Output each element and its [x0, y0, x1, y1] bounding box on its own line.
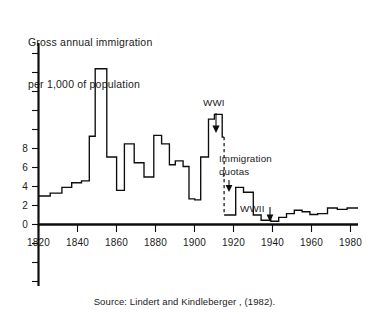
- annotation-wwi-label: WWI: [203, 97, 225, 108]
- annotation-immigration-quotas: Immigration quotas: [219, 153, 272, 192]
- x-tick-label-1860: 1860: [105, 237, 128, 248]
- x-tick-label-1880: 1880: [144, 237, 167, 248]
- x-tick-label-1840: 1840: [66, 237, 89, 248]
- x-tick-label-1900: 1900: [183, 237, 206, 248]
- annotation-wwii-label: WWII: [240, 203, 265, 214]
- y-tick-label-4: 4: [22, 181, 28, 192]
- annotation-wwii: WWII: [240, 203, 273, 222]
- y-tick-label-2: 2: [22, 200, 28, 211]
- chart-plot-area: 0 2 4 6 8 1820 1840 1860 1880 1900 1920: [0, 0, 369, 327]
- annotation-quotas-label-line-2: quotas: [219, 166, 249, 177]
- immigration-chart: Gross annual immigration per 1,000 of po…: [0, 0, 369, 327]
- x-tick-label-1960: 1960: [300, 237, 323, 248]
- annotation-quotas-label-line-1: Immigration: [219, 153, 272, 164]
- x-tick-label-1920: 1920: [222, 237, 245, 248]
- series-step-line-pre-wwi: [39, 69, 225, 200]
- y-tick-label-0: 0: [22, 219, 28, 230]
- annotation-quotas-arrow-head: [226, 185, 233, 192]
- x-tick-label-1820: 1820: [27, 237, 50, 248]
- x-tick-label-1980: 1980: [339, 237, 362, 248]
- annotation-wwi-arrow-head: [212, 126, 219, 134]
- x-tick-label-1940: 1940: [261, 237, 284, 248]
- source-caption: Source: Lindert and Kindleberger , (1982…: [0, 296, 369, 307]
- y-axis-tick-labels: 0 2 4 6 8: [22, 143, 28, 230]
- x-axis-tick-labels: 1820 1840 1860 1880 1900 1920 1940 1960 …: [27, 237, 362, 248]
- y-tick-label-6: 6: [22, 162, 28, 173]
- y-tick-label-8: 8: [22, 143, 28, 154]
